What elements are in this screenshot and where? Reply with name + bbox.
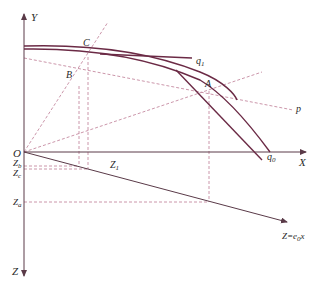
diagram-canvas: Y X Z O A B C q1 q0 p Zb Zc Za Z1 Z=e0x <box>0 0 324 286</box>
q0-label: q0 <box>267 151 276 164</box>
point-c-label: C <box>83 37 90 48</box>
curve-q0-main <box>24 49 270 152</box>
tangent-q1 <box>100 54 192 58</box>
z1-label: Z1 <box>110 159 119 172</box>
axes <box>24 14 306 276</box>
dashed-line-o-a <box>24 72 262 152</box>
dashed-line-p <box>24 58 293 110</box>
p-label: p <box>295 103 301 114</box>
q1-label: q1 <box>196 55 205 68</box>
x-axis-label: X <box>298 156 307 168</box>
za-label: Za <box>13 197 22 209</box>
curves <box>24 46 270 160</box>
z-e0x-line <box>24 152 287 222</box>
construction-lines <box>24 22 293 202</box>
y-axis-label: Y <box>31 11 39 23</box>
z-axis-label: Z <box>12 265 19 277</box>
point-b-label: B <box>66 69 72 80</box>
tangent-q0 <box>176 70 262 160</box>
point-a-label: A <box>204 78 212 89</box>
dashed-line-o-b-c <box>24 22 108 152</box>
z-e0x-label: Z=e0x <box>282 231 305 243</box>
curve-q1-main <box>24 46 237 100</box>
